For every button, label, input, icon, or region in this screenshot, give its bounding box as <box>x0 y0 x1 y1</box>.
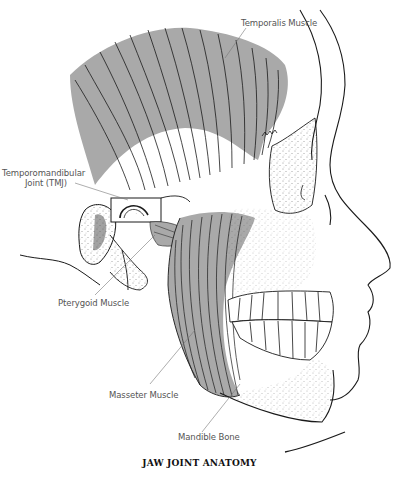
figure-caption: JAW JOINT ANATOMY <box>0 458 399 468</box>
temporalis-muscle <box>70 28 288 190</box>
label-tmj-line1: Temporomandibular <box>2 168 82 178</box>
teeth <box>228 291 333 360</box>
label-mandible-bone: Mandible Bone <box>178 432 240 442</box>
label-tmj-line2: Joint (TMJ) <box>2 178 67 188</box>
skull-illustration <box>0 0 399 478</box>
label-masseter-muscle: Masseter Muscle <box>109 390 178 400</box>
maxilla <box>228 208 316 295</box>
jaw-anatomy-figure: Temporalis Muscle Temporomandibular Join… <box>0 0 399 478</box>
tmj-highlight <box>111 196 190 222</box>
label-pterygoid-muscle: Pterygoid Muscle <box>58 298 129 308</box>
label-temporalis-muscle: Temporalis Muscle <box>241 18 317 28</box>
